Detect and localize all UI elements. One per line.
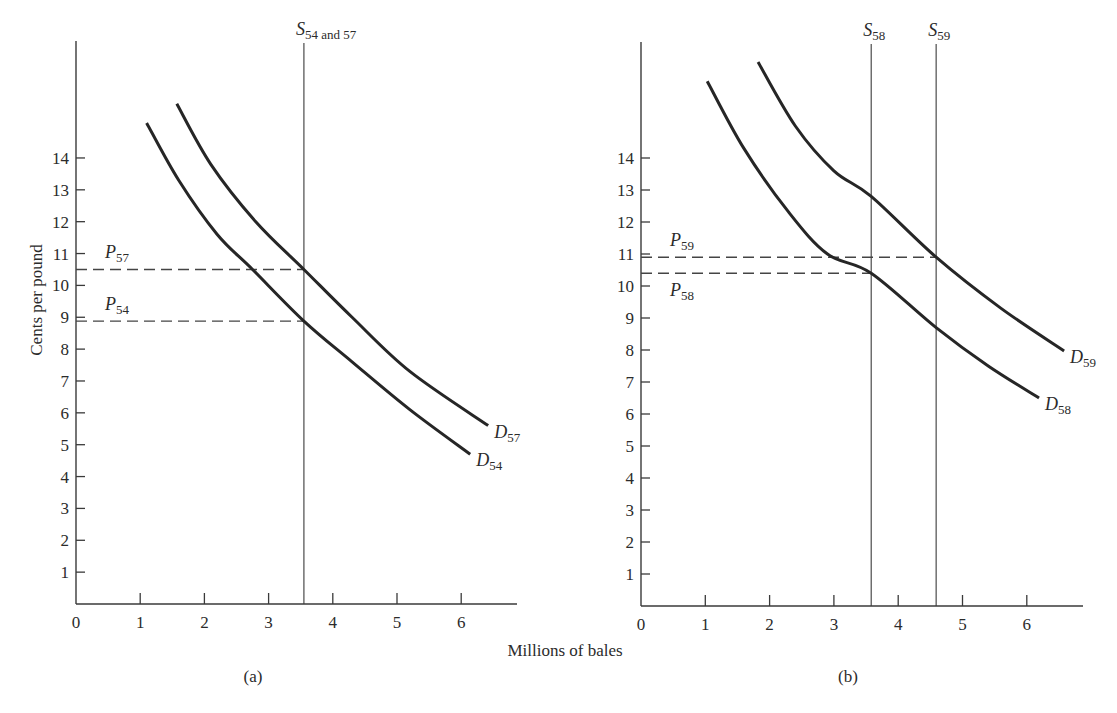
x-tick-label: 5 (958, 615, 967, 634)
x-tick-label: 4 (894, 615, 903, 634)
y-tick-label: 11 (618, 245, 634, 264)
x-tick-label: 0 (72, 613, 81, 632)
demand-curve-58 (707, 81, 1039, 398)
demand-curve-54 (147, 123, 471, 454)
y-tick-label: 4 (626, 469, 635, 488)
y-tick-label: 11 (53, 245, 69, 264)
demand-curve-57 (177, 104, 488, 426)
price-label: P58 (669, 280, 694, 303)
supply-demand-figure: 12345678910111213140123456S54 and 57P57P… (0, 0, 1117, 713)
y-tick-label: 6 (61, 404, 70, 423)
panel-b-chart: 12345678910111213140123456S58S59P59P58D5… (617, 20, 1096, 634)
x-axis-label: Millions of bales (507, 641, 622, 660)
y-tick-label: 4 (61, 468, 70, 487)
y-tick-label: 2 (61, 531, 70, 550)
y-tick-label: 14 (617, 149, 635, 168)
x-tick-label: 6 (457, 613, 466, 632)
chart-canvas: 12345678910111213140123456S54 and 57P57P… (0, 0, 1117, 713)
panel-a-caption: (a) (244, 667, 263, 686)
y-tick-label: 13 (52, 181, 69, 200)
panel-b-caption: (b) (838, 667, 858, 686)
y-tick-label: 6 (626, 405, 635, 424)
y-tick-label: 13 (617, 181, 634, 200)
price-label: P57 (104, 242, 130, 265)
x-tick-label: 3 (830, 615, 839, 634)
x-tick-label: 6 (1023, 615, 1032, 634)
y-tick-label: 10 (617, 277, 634, 296)
y-tick-label: 7 (626, 373, 635, 392)
supply-label: S59 (928, 20, 950, 43)
price-label: P59 (669, 230, 694, 253)
y-tick-label: 12 (52, 213, 69, 232)
y-tick-label: 9 (61, 308, 70, 327)
y-tick-label: 12 (617, 213, 634, 232)
x-tick-label: 2 (200, 613, 209, 632)
y-tick-label: 3 (626, 501, 635, 520)
x-tick-label: 1 (136, 613, 145, 632)
x-tick-label: 4 (329, 613, 338, 632)
y-tick-label: 5 (626, 437, 635, 456)
x-tick-label: 2 (765, 615, 774, 634)
price-label: P54 (104, 294, 130, 317)
y-axis-label: Cents per pound (27, 244, 46, 356)
demand-label: D57 (493, 422, 521, 445)
x-tick-label: 0 (637, 615, 646, 634)
y-tick-label: 8 (626, 341, 635, 360)
y-tick-label: 10 (52, 276, 69, 295)
y-tick-label: 7 (61, 372, 70, 391)
y-tick-label: 1 (61, 563, 70, 582)
panel-a-chart: 12345678910111213140123456S54 and 57P57P… (52, 19, 521, 632)
demand-label: D54 (475, 450, 503, 473)
y-tick-label: 5 (61, 436, 70, 455)
demand-label: D58 (1044, 394, 1071, 417)
y-tick-label: 9 (626, 309, 635, 328)
x-tick-label: 3 (264, 613, 273, 632)
y-tick-label: 3 (61, 499, 70, 518)
x-tick-label: 5 (393, 613, 402, 632)
y-tick-label: 14 (52, 149, 70, 168)
supply-label: S54 and 57 (296, 19, 357, 42)
supply-label: S58 (863, 20, 885, 43)
y-tick-label: 8 (61, 340, 70, 359)
y-tick-label: 1 (626, 565, 635, 584)
y-tick-label: 2 (626, 533, 635, 552)
x-tick-label: 1 (701, 615, 710, 634)
demand-label: D59 (1069, 347, 1096, 370)
